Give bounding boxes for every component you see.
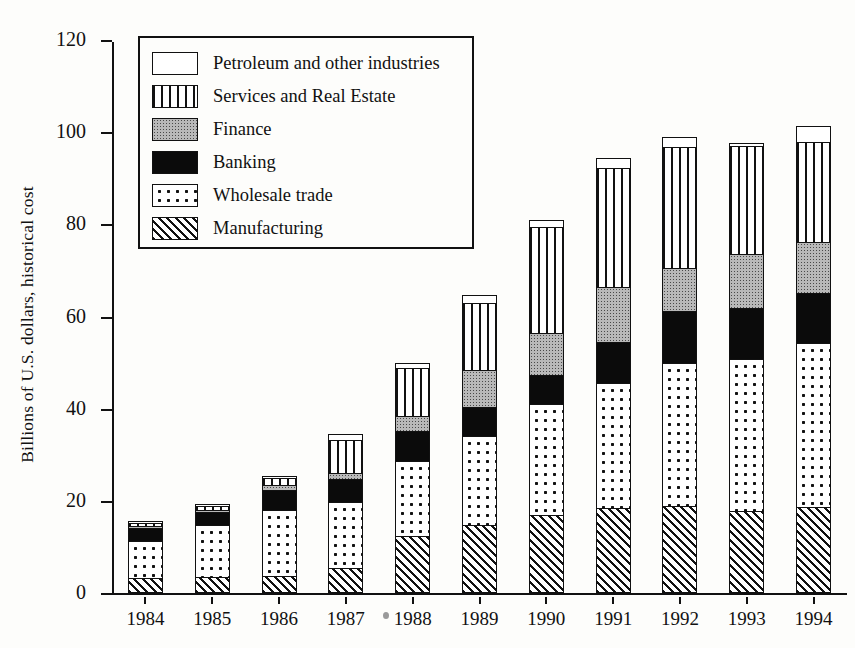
bar-segment-banking[interactable] (729, 308, 764, 360)
bar-segment-finance[interactable] (529, 333, 564, 376)
bar-segment-petroleum-and-other-industries[interactable] (195, 504, 230, 507)
bar-segment-petroleum-and-other-industries[interactable] (328, 434, 363, 441)
bar-segment-wholesale-trade[interactable] (128, 541, 163, 578)
bar-segment-services-and-real-estate[interactable] (262, 478, 297, 486)
bar-group-1988[interactable] (395, 363, 430, 593)
bar-segment-petroleum-and-other-industries[interactable] (395, 363, 430, 369)
y-tick-40: 40 (101, 409, 112, 411)
bar-segment-wholesale-trade[interactable] (462, 436, 497, 526)
legend-item-label: Wholesale trade (213, 185, 333, 206)
bar-segment-finance[interactable] (662, 268, 697, 311)
bar-segment-services-and-real-estate[interactable] (328, 440, 363, 474)
bar-segment-petroleum-and-other-industries[interactable] (596, 158, 631, 169)
y-tick-120: 120 (101, 40, 112, 42)
bar-segment-banking[interactable] (328, 479, 363, 503)
legend-item-label: Finance (213, 119, 272, 140)
bar-segment-banking[interactable] (529, 375, 564, 405)
bar-segment-services-and-real-estate[interactable] (529, 227, 564, 334)
x-tick-1989 (479, 597, 481, 604)
bar-segment-wholesale-trade[interactable] (395, 461, 430, 537)
legend-swatch-icon (152, 118, 198, 141)
bar-segment-services-and-real-estate[interactable] (596, 168, 631, 288)
x-tick-1994 (813, 597, 815, 604)
x-tick-label-1985: 1985 (193, 608, 231, 630)
bar-segment-manufacturing[interactable] (662, 506, 697, 593)
y-tick-100: 100 (101, 132, 112, 134)
bar-segment-wholesale-trade[interactable] (529, 404, 564, 516)
legend-item-manufacturing[interactable]: Manufacturing (140, 212, 472, 245)
bar-segment-services-and-real-estate[interactable] (796, 142, 831, 242)
y-tick-80: 80 (101, 224, 112, 226)
bar-segment-manufacturing[interactable] (195, 577, 230, 593)
bar-segment-manufacturing[interactable] (729, 511, 764, 593)
bar-segment-petroleum-and-other-industries[interactable] (662, 137, 697, 148)
bar-segment-manufacturing[interactable] (328, 568, 363, 593)
y-tick-60: 60 (101, 317, 112, 319)
bar-segment-finance[interactable] (462, 370, 497, 408)
bar-segment-services-and-real-estate[interactable] (729, 146, 764, 254)
scan-speck (383, 612, 389, 619)
bar-segment-petroleum-and-other-industries[interactable] (128, 521, 163, 524)
bar-segment-petroleum-and-other-industries[interactable] (529, 220, 564, 228)
bar-group-1987[interactable] (328, 434, 363, 593)
bar-segment-wholesale-trade[interactable] (195, 525, 230, 578)
bar-segment-wholesale-trade[interactable] (262, 510, 297, 576)
bar-segment-services-and-real-estate[interactable] (395, 368, 430, 418)
bar-segment-manufacturing[interactable] (796, 507, 831, 593)
bar-segment-wholesale-trade[interactable] (729, 359, 764, 512)
bar-group-1989[interactable] (462, 295, 497, 593)
x-tick-label-1987: 1987 (327, 608, 365, 630)
bar-segment-manufacturing[interactable] (395, 536, 430, 593)
bar-segment-services-and-real-estate[interactable] (462, 303, 497, 371)
bar-group-1986[interactable] (262, 476, 297, 593)
x-tick-1985 (211, 597, 213, 604)
legend-item-wholesale-trade[interactable]: Wholesale trade (140, 179, 472, 212)
bar-segment-petroleum-and-other-industries[interactable] (729, 143, 764, 147)
bar-segment-wholesale-trade[interactable] (796, 343, 831, 508)
bar-segment-finance[interactable] (328, 473, 363, 480)
x-tick-1988 (412, 597, 414, 604)
bar-group-1994[interactable] (796, 126, 831, 593)
bar-segment-finance[interactable] (596, 287, 631, 342)
bar-segment-banking[interactable] (662, 311, 697, 364)
bar-segment-manufacturing[interactable] (596, 508, 631, 593)
bar-group-1990[interactable] (529, 220, 564, 593)
x-tick-1990 (545, 597, 547, 604)
x-tick-1984 (144, 597, 146, 604)
bar-group-1992[interactable] (662, 137, 697, 593)
bar-group-1985[interactable] (195, 504, 230, 593)
bar-segment-manufacturing[interactable] (128, 578, 163, 593)
bar-group-1993[interactable] (729, 143, 764, 593)
bar-segment-wholesale-trade[interactable] (596, 383, 631, 509)
bar-segment-finance[interactable] (395, 416, 430, 431)
bar-group-1991[interactable] (596, 158, 631, 593)
x-tick-label-1991: 1991 (594, 608, 632, 630)
bar-segment-banking[interactable] (128, 528, 163, 542)
bar-segment-banking[interactable] (796, 293, 831, 344)
bar-segment-wholesale-trade[interactable] (662, 363, 697, 508)
legend-item-finance[interactable]: Finance (140, 113, 472, 146)
bar-segment-manufacturing[interactable] (262, 576, 297, 594)
bar-segment-petroleum-and-other-industries[interactable] (262, 476, 297, 479)
bar-segment-banking[interactable] (262, 490, 297, 511)
legend-item-petroleum-and-other-industries[interactable]: Petroleum and other industries (140, 47, 472, 80)
bar-segment-banking[interactable] (596, 342, 631, 385)
legend-item-services-and-real-estate[interactable]: Services and Real Estate (140, 80, 472, 113)
bar-segment-petroleum-and-other-industries[interactable] (796, 126, 831, 144)
bar-segment-petroleum-and-other-industries[interactable] (462, 295, 497, 304)
x-tick-label-1990: 1990 (527, 608, 565, 630)
x-tick-1991 (612, 597, 614, 604)
bar-group-1984[interactable] (128, 521, 163, 593)
bar-segment-finance[interactable] (796, 242, 831, 295)
bar-segment-services-and-real-estate[interactable] (662, 147, 697, 269)
bar-segment-manufacturing[interactable] (529, 515, 564, 593)
bar-segment-banking[interactable] (195, 512, 230, 526)
bar-segment-banking[interactable] (395, 431, 430, 463)
legend-item-banking[interactable]: Banking (140, 146, 472, 179)
bar-segment-banking[interactable] (462, 407, 497, 437)
x-axis: 1984198519861987198819891990199119921993… (112, 597, 847, 637)
bar-segment-finance[interactable] (729, 254, 764, 310)
bar-segment-manufacturing[interactable] (462, 525, 497, 593)
y-axis-title: Billions of U.S. dollars, historical cos… (10, 0, 44, 648)
bar-segment-wholesale-trade[interactable] (328, 502, 363, 568)
